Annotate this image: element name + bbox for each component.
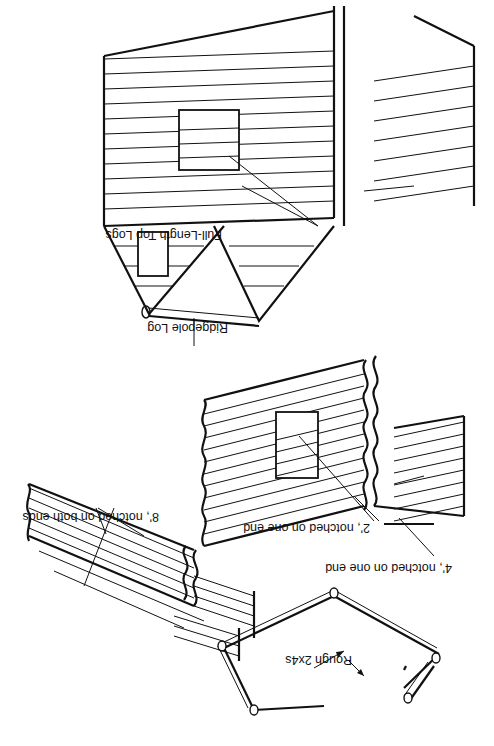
upside-down-log-cabin-diagram: Rough 2x4s 8', notched on both ends 4', … [0, 0, 494, 746]
stage-4-completed-walls [104, 6, 474, 346]
stage-1-base-frame [218, 588, 440, 715]
label-4ft-notched-one-end: 4', notched on one end [325, 562, 452, 575]
label-2ft-notched-one-end: 2', notched on one end [243, 522, 370, 535]
label-rough-2x4s: Rough 2x4s [285, 654, 352, 667]
diagram-drawing [0, 0, 494, 746]
label-full-length-top-logs: Full-Length Top Logs [105, 229, 222, 242]
label-ridgepole-log: Ridgepole Log [147, 322, 228, 335]
label-8ft-notched-both-ends: 8', notched on both ends [22, 511, 159, 524]
